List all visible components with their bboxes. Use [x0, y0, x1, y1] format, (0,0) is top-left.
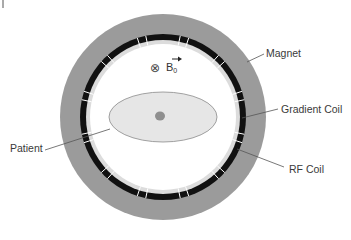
b0-field-label: B0 — [166, 62, 177, 74]
rf-coil-label: RF Coil — [289, 164, 324, 175]
magnet-label: Magnet — [266, 48, 301, 59]
patient-label: Patient — [10, 143, 43, 154]
patient-core — [155, 112, 165, 121]
gradient-coil-label: Gradient Coil — [281, 104, 342, 115]
magnet-leader-line — [247, 54, 264, 62]
b0-subscript: 0 — [173, 67, 177, 74]
field-into-page-icon: ⊗ — [150, 62, 160, 74]
